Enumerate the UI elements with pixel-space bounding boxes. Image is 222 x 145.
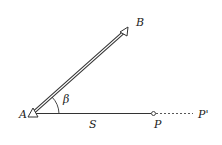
point-p-marker — [152, 112, 156, 116]
angle-distance-diagram: A B β S P P' — [0, 0, 222, 145]
label-a: A — [18, 108, 27, 121]
angle-arc-icon — [52, 97, 59, 114]
label-p: P — [153, 118, 162, 131]
label-s: S — [89, 118, 97, 131]
label-p-prime: P' — [197, 108, 208, 121]
line-ab — [34, 32, 124, 112]
label-b: B — [135, 16, 144, 29]
label-beta: β — [62, 93, 69, 106]
